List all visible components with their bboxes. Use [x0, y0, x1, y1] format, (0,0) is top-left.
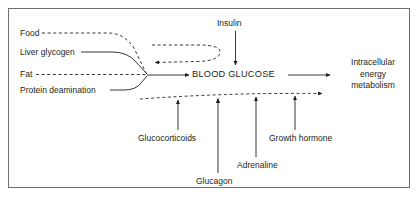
output-line-3: metabolism — [336, 80, 410, 92]
node-label-food: Food — [20, 28, 39, 38]
diagram-figure: Food Liver glycogen Fat Protein deaminat… — [0, 0, 419, 204]
node-label-blood-glucose: BLOOD GLUCOSE — [192, 69, 275, 79]
node-label-intracellular-energy-metabolism: Intracellular energy metabolism — [336, 57, 410, 92]
node-label-fat: Fat — [20, 69, 32, 79]
node-label-protein-deamination: Protein deamination — [20, 85, 96, 95]
node-label-growth-hormone: Growth hormone — [269, 133, 332, 143]
connector-liver-glycogen — [81, 52, 147, 74]
diagram-canvas — [0, 0, 419, 204]
node-label-insulin: Insulin — [217, 18, 242, 28]
connector-protein-deamination — [110, 76, 147, 90]
output-line-2: energy — [336, 69, 410, 81]
node-label-liver-glycogen: Liver glycogen — [20, 47, 75, 57]
output-line-1: Intracellular — [336, 57, 410, 69]
connector-feedback-upper — [152, 45, 220, 63]
node-label-glucagon: Glucagon — [196, 176, 232, 186]
node-label-glucocorticoids: Glucocorticoids — [138, 133, 196, 143]
figure-border — [9, 9, 410, 188]
node-label-adrenaline: Adrenaline — [237, 160, 278, 170]
